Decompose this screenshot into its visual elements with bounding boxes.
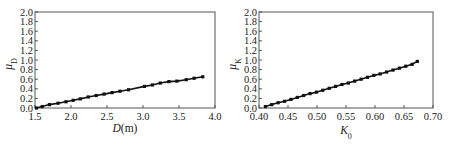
y-tick-label: 1.8 <box>244 16 257 27</box>
data-point <box>359 78 362 81</box>
data-point <box>193 77 196 80</box>
y-tick-label: 1.6 <box>20 26 33 37</box>
data-point <box>277 101 280 104</box>
data-point <box>328 87 331 90</box>
data-point <box>41 105 44 108</box>
x-tick-label: 0.65 <box>395 111 413 122</box>
data-point <box>321 89 324 92</box>
data-point <box>353 80 356 83</box>
x-tick-label: 0.60 <box>366 111 384 122</box>
data-point <box>347 81 350 84</box>
data-point <box>151 83 154 86</box>
y-tick-label: 0.2 <box>20 93 33 104</box>
x-tick-label: 0.70 <box>424 111 442 122</box>
data-point <box>270 103 273 106</box>
data-point <box>283 100 286 103</box>
y-tick-label: 1.8 <box>20 16 33 27</box>
data-point <box>308 92 311 95</box>
y-tick-label: 1.2 <box>244 45 257 56</box>
y-tick-label: 0.8 <box>244 64 257 75</box>
data-point <box>48 103 51 106</box>
y-axis-label-sub: K <box>234 58 243 64</box>
y-tick-label: 1.0 <box>244 55 257 66</box>
x-tick-label: 1.5 <box>28 111 41 122</box>
y-tick-label: 0.6 <box>20 74 33 85</box>
data-point <box>340 83 343 86</box>
plot-frame <box>35 12 215 108</box>
data-point <box>118 90 121 93</box>
data-point <box>264 105 267 108</box>
data-point <box>404 65 407 68</box>
data-point <box>334 85 337 88</box>
data-point <box>167 80 170 83</box>
x-axis-label-unit: (m) <box>121 122 138 135</box>
data-point <box>296 96 299 99</box>
x-tick-label: 0.40 <box>250 111 268 122</box>
data-point <box>159 81 162 84</box>
y-tick-label: 1.6 <box>244 26 257 37</box>
data-point <box>315 91 318 94</box>
data-point <box>64 100 67 103</box>
data-point <box>416 60 419 63</box>
x-tick-label: 0.50 <box>308 111 326 122</box>
y-tick-label: 0.2 <box>244 93 257 104</box>
plot-frame <box>259 12 433 108</box>
y-tick-label: 1.2 <box>20 45 33 56</box>
data-point <box>411 63 414 66</box>
y-tick-label: 0.4 <box>244 83 258 94</box>
data-point <box>175 80 178 83</box>
charts-figure: 0.00.20.40.60.81.01.21.41.61.82.0 1.52.0… <box>0 0 449 146</box>
data-point <box>201 75 204 78</box>
y-tick-label: 0.8 <box>20 64 33 75</box>
data-point <box>398 67 401 70</box>
y-axis-label: μK <box>226 58 243 71</box>
data-point <box>79 97 82 100</box>
data-point <box>95 94 98 97</box>
data-point <box>127 88 130 91</box>
data-point <box>302 94 305 97</box>
y-tick-label: 1.0 <box>20 55 33 66</box>
data-point <box>103 92 106 95</box>
data-point <box>110 91 113 94</box>
data-point <box>87 95 90 98</box>
y-axis-label: μD <box>2 58 19 71</box>
data-point <box>366 76 369 79</box>
y-tick-label: 1.4 <box>244 35 258 46</box>
x-tick-label: 4.0 <box>208 111 221 122</box>
data-series <box>264 60 419 108</box>
x-tick-label: 3.5 <box>172 111 185 122</box>
y-tick-label: 2.0 <box>244 7 257 18</box>
x-tick-label: 0.45 <box>279 111 297 122</box>
x-tick-label: 0.55 <box>337 111 355 122</box>
data-point <box>385 70 388 73</box>
x-tick-label: 2.0 <box>64 111 77 122</box>
data-point <box>379 72 382 75</box>
x-axis-label: D(m) <box>112 122 138 135</box>
y-tick-label: 0.4 <box>20 83 34 94</box>
data-point <box>143 85 146 88</box>
x-axis-label: K0 <box>339 124 352 141</box>
data-point <box>35 106 38 109</box>
x-tick-label: 3.0 <box>136 111 149 122</box>
data-point <box>185 78 188 81</box>
data-series <box>35 75 205 109</box>
y-tick-label: 1.4 <box>20 35 34 46</box>
chart-mu-d-vs-d: 0.00.20.40.60.81.01.21.41.61.82.0 1.52.0… <box>2 7 222 136</box>
x-axis-label-sub: 0 <box>348 132 352 141</box>
x-tick-label: 2.5 <box>100 111 113 122</box>
data-point <box>391 68 394 71</box>
y-axis-label-sub: D <box>10 58 19 64</box>
chart-mu-k-vs-k0: 0.00.20.40.60.81.01.21.41.61.82.0 0.400.… <box>226 7 442 141</box>
data-point <box>289 98 292 101</box>
data-point <box>372 74 375 77</box>
y-tick-label: 2.0 <box>20 7 33 18</box>
y-tick-label: 0.6 <box>244 74 257 85</box>
data-point <box>56 102 59 105</box>
data-point <box>72 99 75 102</box>
